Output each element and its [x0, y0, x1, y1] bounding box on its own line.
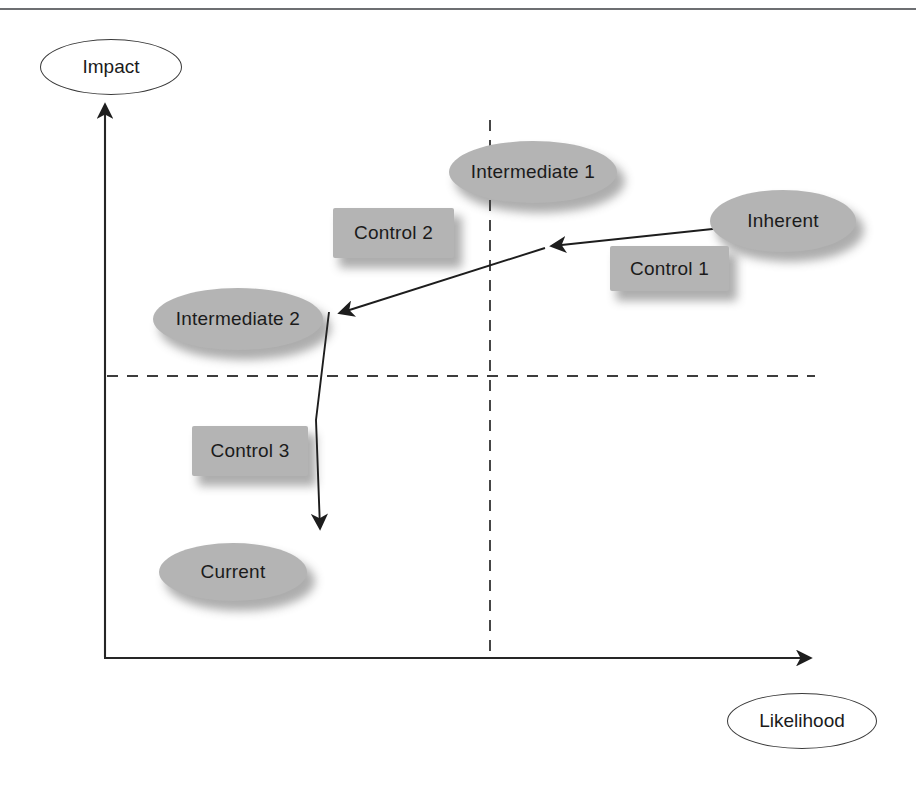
node-control-1-label: Control 1 — [630, 258, 709, 280]
connector-intermediate-2-to-current — [316, 312, 329, 528]
node-intermediate-2-label: Intermediate 2 — [176, 308, 300, 330]
impact-axis-label-bubble: Impact — [40, 39, 182, 95]
node-intermediate-1-label: Intermediate 1 — [471, 161, 595, 183]
likelihood-axis-label-text: Likelihood — [759, 710, 845, 732]
risk-matrix-figure: Impact Likelihood Inherent Control 1 Int… — [0, 0, 916, 791]
node-inherent[interactable]: Inherent — [710, 190, 856, 252]
node-control-2[interactable]: Control 2 — [333, 208, 454, 258]
node-control-3-label: Control 3 — [211, 440, 290, 462]
diagram-vector-layer — [0, 0, 916, 791]
node-intermediate-2[interactable]: Intermediate 2 — [153, 288, 323, 350]
node-inherent-label: Inherent — [747, 210, 818, 232]
node-intermediate-1[interactable]: Intermediate 1 — [449, 141, 617, 203]
node-control-1[interactable]: Control 1 — [610, 246, 729, 291]
connector-inherent-to-intermediate-1 — [552, 228, 722, 246]
impact-axis-label-text: Impact — [82, 56, 139, 78]
node-control-3[interactable]: Control 3 — [192, 426, 308, 476]
node-current[interactable]: Current — [159, 543, 307, 601]
likelihood-axis-label-bubble: Likelihood — [727, 693, 877, 749]
node-current-label: Current — [201, 561, 266, 583]
node-control-2-label: Control 2 — [354, 222, 433, 244]
